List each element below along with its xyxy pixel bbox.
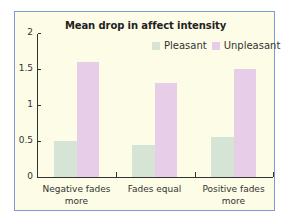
x-category-label: Negative fadesmore: [37, 183, 117, 207]
y-tick-label: 1.5: [15, 63, 33, 73]
y-tick: [38, 141, 41, 142]
bar-unpleasant: [234, 69, 257, 177]
pleasant-swatch-icon: [152, 42, 160, 50]
legend-item-unpleasant: Unpleasant: [212, 40, 281, 51]
chart-panel: Mean drop in affect intensity Pleasant U…: [14, 11, 275, 211]
y-tick: [38, 33, 41, 34]
x-axis: [37, 177, 273, 178]
x-tick: [273, 172, 274, 177]
bar-pleasant: [132, 145, 155, 177]
y-tick-label: 0.5: [15, 135, 33, 145]
legend-label-pleasant: Pleasant: [164, 40, 207, 51]
bar-pleasant: [211, 137, 234, 177]
x-tick: [116, 172, 117, 177]
legend-label-unpleasant: Unpleasant: [224, 40, 281, 51]
bar-unpleasant: [77, 62, 100, 177]
chart-title: Mean drop in affect intensity: [15, 20, 276, 31]
x-tick: [195, 172, 196, 177]
unpleasant-swatch-icon: [212, 42, 220, 50]
y-tick-label: 0: [15, 171, 33, 181]
x-category-label: Fades equal: [115, 183, 195, 195]
legend-item-pleasant: Pleasant: [152, 40, 207, 51]
y-tick-label: 1: [15, 99, 33, 109]
y-tick: [38, 105, 41, 106]
bar-pleasant: [54, 141, 77, 177]
bar-unpleasant: [155, 83, 178, 177]
y-tick-label: 2: [15, 27, 33, 37]
x-category-label: Positive fadesmore: [194, 183, 274, 207]
legend: Pleasant Unpleasant: [152, 40, 285, 51]
y-axis: [37, 34, 38, 178]
y-tick: [38, 69, 41, 70]
